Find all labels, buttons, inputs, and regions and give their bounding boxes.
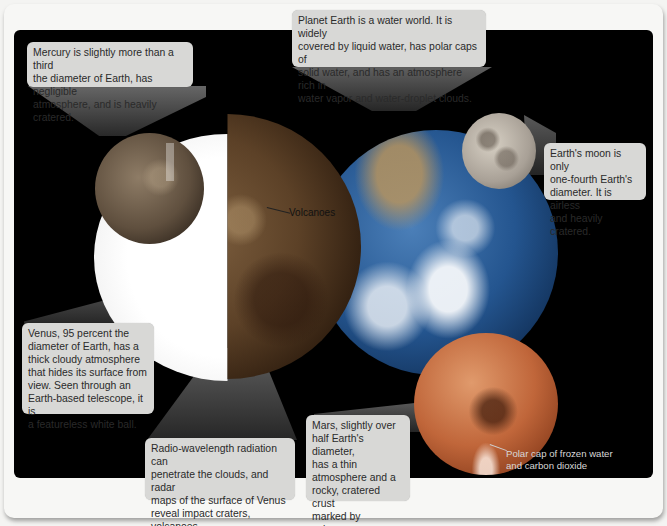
earth-callout: Planet Earth is a water world. It is wid… (292, 10, 486, 67)
radio-callout: Radio-wavelength radiation can penetrate… (145, 438, 295, 500)
mercury-planet (95, 133, 204, 244)
mercury-callout: Mercury is slightly more than a third th… (27, 42, 193, 87)
venus-callout: Venus, 95 percent the diameter of Earth,… (22, 323, 154, 414)
moon-callout: Earth's moon is only one-fourth Earth's … (544, 143, 646, 200)
polar-cap-label: Polar cap of frozen water and carbon dio… (506, 448, 613, 472)
volcanoes-label: Volcanoes (289, 207, 335, 218)
mars-callout: Mars, slightly over half Earth's diamete… (306, 415, 410, 501)
moon-planet (462, 113, 536, 189)
